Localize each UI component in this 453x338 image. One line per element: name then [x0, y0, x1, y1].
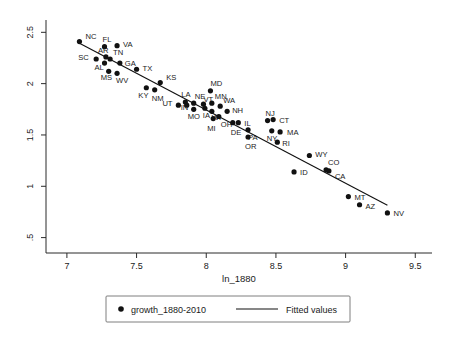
data-point-mo	[191, 107, 196, 112]
data-point-ri	[275, 140, 280, 145]
point-label-ks: KS	[166, 73, 176, 82]
legend: growth_1880-2010 Fitted values	[106, 296, 350, 322]
data-point-tx	[134, 67, 139, 72]
data-point-ca	[326, 168, 331, 173]
point-label-tx: TX	[143, 64, 153, 73]
point-label-la: LA	[181, 90, 191, 99]
data-point-nh	[225, 109, 230, 114]
point-label-nc: NC	[85, 32, 96, 41]
data-point-ma	[278, 129, 283, 134]
x-axis-ticks: 77.588.599.5	[64, 253, 421, 271]
point-label-mt: MT	[354, 193, 365, 202]
data-point-ky	[144, 85, 149, 90]
data-point-az	[357, 202, 362, 207]
legend-label-growth: growth_1880-2010	[131, 305, 206, 315]
point-label-or: OR	[245, 142, 257, 151]
point-label-md: MD	[210, 79, 222, 88]
point-label-al: AL	[95, 63, 104, 72]
point-label-ga: GA	[125, 59, 137, 68]
data-point-ne	[191, 101, 196, 106]
y-tick-label: 1	[25, 184, 35, 189]
data-point-il	[236, 120, 241, 125]
y-tick-label: 2.5	[25, 26, 35, 39]
point-label-ma: MA	[287, 128, 299, 137]
point-label-ar: AR	[98, 46, 109, 55]
point-label-ms: MS	[101, 73, 112, 82]
data-point-mt	[346, 194, 351, 199]
data-point-ia	[202, 106, 207, 111]
point-label-co: CO	[328, 158, 339, 167]
y-tick-label: .5	[25, 234, 35, 242]
point-label-ky: KY	[138, 91, 148, 100]
plot-area: 2.521.51.5 77.588.599.5 ln_1880 NCFLVASC…	[0, 0, 453, 338]
data-point-mi	[211, 116, 216, 121]
data-point-wy	[307, 153, 312, 158]
data-point-id	[291, 169, 296, 174]
data-point-tn	[108, 56, 113, 61]
data-point-nj	[265, 118, 270, 123]
legend-marker-dot	[118, 306, 124, 312]
point-label-il: IL	[244, 119, 250, 128]
y-tick-label: 1.5	[25, 129, 35, 142]
point-label-nj: NJ	[266, 109, 275, 118]
point-label-in: IN	[181, 103, 189, 112]
data-point-nv	[385, 210, 390, 215]
scatter-chart: 2.521.51.5 77.588.599.5 ln_1880 NCFLVASC…	[0, 0, 453, 338]
point-label-ct: CT	[279, 116, 289, 125]
data-point-de	[230, 120, 235, 125]
x-tick-label: 7.5	[130, 261, 143, 271]
point-label-id: ID	[300, 168, 308, 177]
x-tick-label: 9.5	[409, 261, 422, 271]
point-label-ut: UT	[162, 99, 172, 108]
point-label-ca: CA	[335, 172, 346, 181]
point-label-de: DE	[231, 128, 242, 137]
point-label-fl: FL	[103, 35, 112, 44]
data-point-nm	[152, 87, 157, 92]
data-point-or	[245, 134, 250, 139]
point-label-va: VA	[123, 40, 134, 49]
data-point-ct	[271, 117, 276, 122]
data-point-group: NCFLVASCARTNALGAMSWVTXKSKYNMUTLAINNEMOVT…	[77, 32, 405, 218]
x-tick-label: 9	[343, 261, 348, 271]
point-label-wv: WV	[116, 76, 129, 85]
y-axis-ticks: 2.521.51.5	[25, 26, 46, 241]
y-tick-label: 2	[25, 81, 35, 86]
data-point-ny	[269, 128, 274, 133]
x-tick-label: 8	[204, 261, 209, 271]
data-point-nc	[77, 39, 82, 44]
x-axis-title: ln_1880	[222, 273, 256, 284]
point-label-mi: MI	[207, 124, 215, 133]
data-point-wv	[114, 71, 119, 76]
point-label-wy: WY	[315, 150, 327, 159]
legend-label-fitted: Fitted values	[286, 305, 338, 315]
point-label-tn: TN	[113, 48, 123, 57]
point-label-wa: WA	[223, 96, 236, 105]
data-point-ga	[117, 61, 122, 66]
point-label-az: AZ	[366, 202, 376, 211]
point-label-nh: NH	[232, 106, 243, 115]
data-point-ks	[158, 80, 163, 85]
data-point-oh	[216, 114, 221, 119]
point-label-mo: MO	[188, 112, 200, 121]
point-label-ri: RI	[282, 139, 290, 148]
x-tick-label: 7	[64, 261, 69, 271]
data-point-wa	[218, 104, 223, 109]
x-tick-label: 8.5	[270, 261, 283, 271]
point-label-sc: SC	[78, 53, 89, 62]
point-label-nv: NV	[393, 209, 404, 218]
data-point-sc	[94, 56, 99, 61]
data-point-mn	[209, 101, 214, 106]
data-point-pa	[245, 127, 250, 132]
data-point-md	[208, 88, 213, 93]
